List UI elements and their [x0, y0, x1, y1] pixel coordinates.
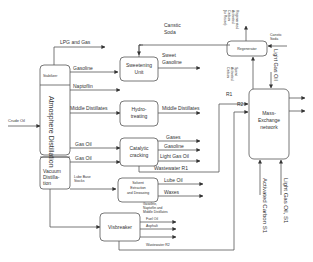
gasoline-label: Gasoline — [73, 65, 93, 71]
caustic-soda-top-label: CansticSoda — [164, 22, 181, 35]
mass-exchange-label: Mass-Exchangenetwork — [258, 110, 280, 130]
crude-oil-label: Crude Oil — [8, 118, 25, 123]
stabilizer-label: Stabilizer — [43, 74, 58, 78]
r2-label: R2 — [237, 101, 244, 107]
spent-carbon-label: SpentActivatedCarbon — [226, 67, 238, 81]
sweetening-unit-label: SweeteningUnit — [126, 62, 152, 75]
atmos-distillation-label: Atmosphere Distillation — [47, 96, 55, 168]
middle-distillates-label: Middle Distillates — [70, 105, 108, 111]
gases-label: Gases — [166, 134, 181, 140]
middle-distillates-out-label: Middle Distillates — [162, 105, 200, 111]
visbreaker-label: Visbreaker — [108, 224, 132, 230]
visbreaker-products-label: Gasoline,Naptoflin andMiddle Distillates — [143, 202, 168, 214]
regenerator-label: Regenerator — [237, 47, 257, 51]
vacuum-distillation-label: VacuumDistilla-tion — [43, 168, 61, 186]
light-gas-oil-right-label: Light Gas Oil — [273, 49, 279, 81]
light-gas-oil-s1-label: Light Gas Oil, S1 — [283, 178, 289, 224]
lube-oil-label: Lube Oil — [164, 177, 183, 183]
gas-oil-label-2: Gas Oil — [75, 155, 92, 161]
waxes-label: Waxes — [164, 189, 180, 195]
wastewater-r2-label: Wastewater R2 — [146, 243, 170, 247]
sweet-gasoline-label: SweetGasoline — [162, 52, 182, 65]
refinery-flow-diagram: Crude Oil Stabilizer Atmosphere Distilla… — [0, 0, 313, 262]
lpg-label: LPG and Gas — [60, 39, 91, 45]
asphalt-label: Asphalt — [146, 224, 158, 228]
lube-base-label: Lube BaseStocks — [74, 175, 91, 183]
activated-carbon-label: Activated Carbon S1 — [262, 178, 268, 234]
r1-label: R1 — [226, 91, 233, 97]
cc-gasoline-label: Gasoline — [164, 143, 184, 149]
regenerated-carbon-label: RegeneratedActivatedCarbon(to Reuse) — [223, 10, 239, 29]
solvent-extraction-label: SolventExtractionand Dewaxing — [127, 181, 149, 195]
catalytic-cracking-label: Catalyticcracking — [129, 145, 149, 158]
fuel-oil-label: Fuel Oil — [146, 217, 158, 221]
wastewater-r1-label: Wastewater R1 — [154, 165, 188, 171]
gas-oil-label: Gas Oil — [75, 141, 92, 147]
hydrotreating-label: Hydro-treating — [131, 106, 148, 119]
light-gas-oil-label: Light Gas Oil — [160, 153, 189, 159]
caustic-soda-right-label: CansticSoda — [270, 33, 282, 41]
naptoflin-label: Naptoflin — [73, 83, 93, 89]
